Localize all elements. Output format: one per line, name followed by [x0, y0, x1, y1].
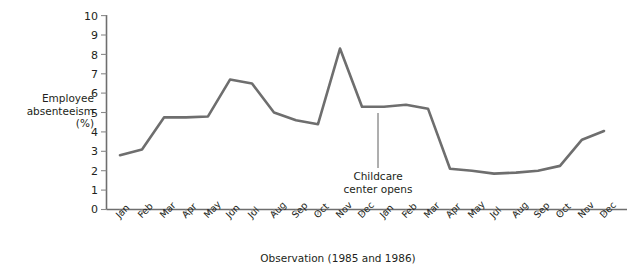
- annotation-line-1: Childcare: [332, 170, 424, 183]
- y-axis-ticks: [101, 16, 107, 210]
- annotation-childcare-center-opens: Childcare center opens: [332, 170, 424, 195]
- plot-area: [0, 0, 636, 272]
- data-line-series: [120, 49, 604, 174]
- x-axis-title: Observation (1985 and 1986): [0, 252, 636, 264]
- annotation-line-2: center opens: [332, 183, 424, 196]
- line-chart: Employee absenteeism (%) 10 9 8 7 6 5 4 …: [0, 0, 636, 272]
